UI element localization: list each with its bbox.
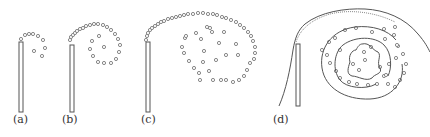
dot-d: [384, 73, 387, 76]
rods: [19, 42, 300, 112]
dot-c: [245, 68, 248, 71]
dot-b: [91, 54, 94, 57]
dot-c: [202, 49, 205, 52]
dot-b: [84, 24, 87, 27]
dot-b: [102, 45, 105, 48]
inner-spiral-curve: [335, 38, 391, 87]
dot-a: [19, 37, 22, 40]
dot-c: [210, 30, 213, 33]
rod-a: [19, 42, 23, 112]
panel-label-c: (c): [141, 113, 156, 126]
dot-c: [252, 57, 255, 60]
dot-c: [182, 13, 185, 16]
dot-b: [96, 22, 99, 25]
dot-d: [351, 62, 354, 65]
dot-b: [105, 25, 108, 28]
dot-d: [386, 82, 389, 85]
rod-b: [70, 45, 74, 112]
dot-c: [192, 66, 195, 69]
dot-d: [355, 82, 358, 85]
dot-d: [357, 68, 360, 71]
dot-c: [180, 45, 183, 48]
dot-c: [246, 30, 249, 33]
dot-d: [328, 61, 331, 64]
dot-c: [206, 12, 209, 15]
dot-c: [234, 20, 237, 23]
dot-c: [231, 80, 234, 83]
dot-a: [43, 46, 46, 49]
dot-b: [116, 37, 119, 40]
dot-a: [27, 32, 30, 35]
dot-a: [40, 54, 43, 57]
dot-b: [96, 60, 99, 63]
outer-arm-curve: [296, 12, 395, 42]
dot-c: [196, 11, 199, 14]
dot-c: [211, 78, 214, 81]
dot-c: [237, 78, 240, 81]
panel-label-b: (b): [62, 113, 78, 126]
figure: (a) (b) (c) (d): [0, 0, 430, 137]
dot-d: [401, 52, 404, 55]
dot-c: [234, 42, 237, 45]
dot-d: [362, 50, 365, 53]
dot-b: [117, 50, 120, 53]
dot-b: [113, 32, 116, 35]
dot-b: [118, 43, 121, 46]
dot-c: [198, 78, 201, 81]
dot-d: [383, 37, 386, 40]
dot-a: [32, 49, 35, 52]
dot-d: [402, 71, 405, 74]
dot-c: [207, 69, 210, 72]
dot-c: [191, 12, 194, 15]
dot-a: [41, 38, 44, 41]
dot-d: [333, 36, 336, 39]
dot-c: [199, 37, 202, 40]
dot-c: [229, 18, 232, 21]
dot-c: [224, 78, 227, 81]
dot-d: [395, 43, 398, 46]
dot-c: [194, 31, 197, 34]
dot-b: [88, 23, 91, 26]
rod-d: [296, 44, 300, 106]
rod-c: [146, 42, 150, 112]
dot-c: [249, 34, 252, 37]
dot-c: [242, 74, 245, 77]
dot-b: [90, 39, 93, 42]
dot-c: [208, 26, 211, 29]
dot-c: [222, 30, 225, 33]
dot-b: [114, 57, 117, 60]
dot-d: [363, 58, 366, 61]
dot-c: [178, 14, 181, 17]
dot-b: [97, 34, 100, 37]
dot-b: [101, 23, 104, 26]
dot-a: [36, 34, 39, 37]
dot-b: [88, 47, 91, 50]
dot-c: [220, 15, 223, 18]
dot-c: [211, 12, 214, 15]
dot-a: [23, 33, 26, 36]
dot-c: [182, 51, 185, 54]
dot-c: [253, 51, 256, 54]
dot-c: [248, 61, 251, 64]
dot-c: [215, 13, 218, 16]
dot-c: [186, 12, 189, 15]
dot-c: [166, 17, 169, 20]
particle-dots: [19, 11, 407, 88]
spiral-curves: [279, 9, 430, 106]
dot-c: [224, 16, 227, 19]
dot-b: [109, 28, 112, 31]
outer-spiral-curve: [279, 9, 430, 106]
dot-d: [325, 53, 328, 56]
dot-b: [92, 22, 95, 25]
dot-c: [197, 71, 200, 74]
dot-c: [251, 39, 254, 42]
dot-c: [144, 38, 147, 41]
dot-c: [201, 60, 204, 63]
dot-d: [394, 56, 397, 59]
dot-b: [109, 61, 112, 64]
dot-c: [184, 34, 187, 37]
dot-c: [174, 15, 177, 18]
dot-c: [238, 23, 241, 26]
dot-c: [201, 11, 204, 14]
dot-d: [387, 62, 390, 65]
